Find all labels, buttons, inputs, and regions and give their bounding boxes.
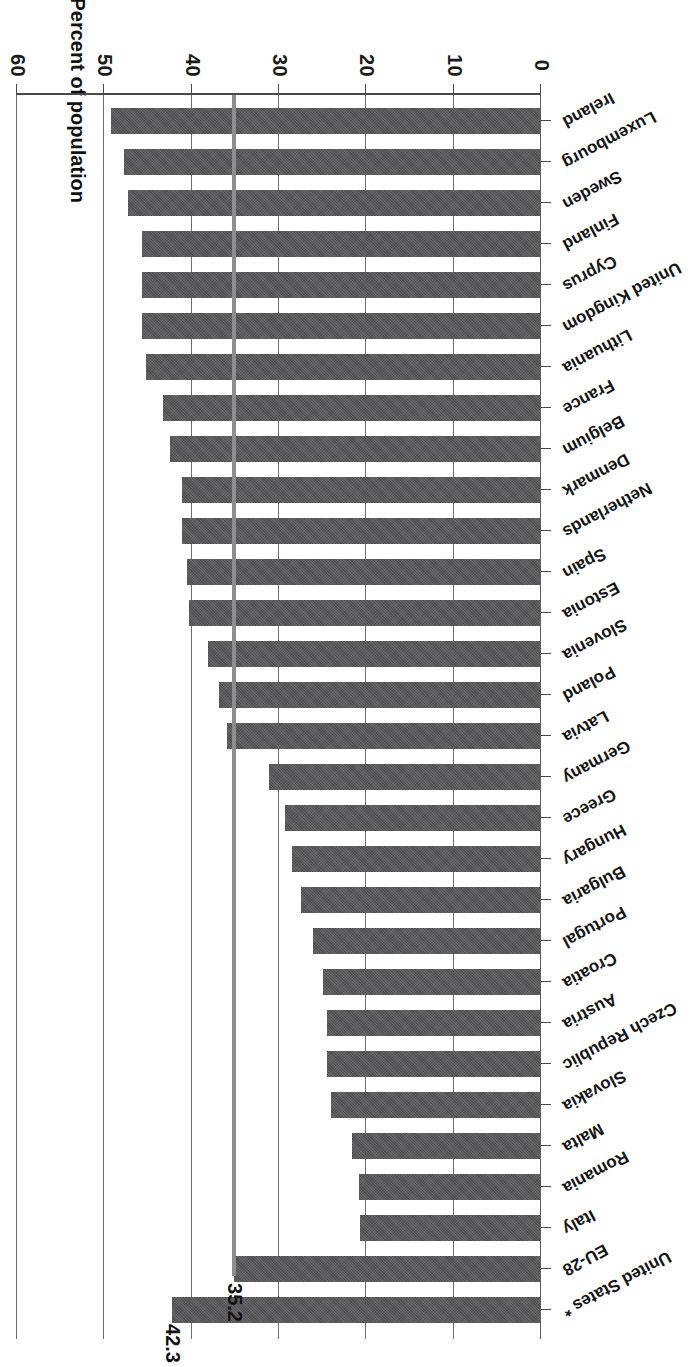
category-tick-bulgaria [541,900,551,901]
category-tick-luxembourg [541,162,551,163]
bar-denmark [182,478,541,504]
bar-spain [187,560,541,586]
category-label-latvia: Latvia [559,706,612,747]
bar-italy [360,1216,541,1242]
category-tick-lithuania [541,367,551,368]
category-label-malta: Malta [559,1119,607,1157]
category-tick-spain [541,572,551,573]
category-tick-poland [541,695,551,696]
category-label-italy: Italy [559,1206,598,1240]
category-label-greece: Greece [559,784,619,829]
bar-eu-28 [234,1257,541,1283]
category-tick-italy [541,1228,551,1229]
bar-belgium [170,437,541,463]
category-label-eu-28: EU-28 [559,1240,611,1280]
category-tick-cyprus [541,285,551,286]
bar-croatia [323,970,541,996]
category-tick-greece [541,818,551,819]
category-tick-slovenia [541,654,551,655]
bar-czech-republic [327,1052,541,1078]
category-label-finland: Finland [559,209,622,255]
bar-malta [352,1134,541,1160]
category-label-france: France [559,375,618,419]
category-tick-austria [541,1023,551,1024]
bar-bulgaria [301,888,541,914]
bar-sweden [128,191,541,217]
category-tick-portugal [541,941,551,942]
category-tick-denmark [541,490,551,491]
bar-netherlands [182,519,541,545]
bar-greece [285,806,541,832]
bar-romania [359,1175,541,1201]
bar-ireland [111,109,541,135]
category-tick-czech-republic [541,1064,551,1065]
category-tick-united-states- [541,1310,551,1311]
bar-finland [142,232,541,258]
category-tick-netherlands [541,531,551,532]
category-label-poland: Poland [559,662,618,706]
category-tick-ireland [541,121,551,122]
category-label-ireland: Ireland [559,88,618,132]
data-label-united-states: 42.3 [160,1319,183,1367]
category-tick-eu-28 [541,1269,551,1270]
category-tick-united-kingdom [541,326,551,327]
bar-slovenia [208,642,541,668]
data-label-eu-28: 35.2 [222,1278,245,1328]
category-label-croatia: Croatia [559,948,620,993]
bar-united-kingdom [142,314,541,340]
category-tick-slovakia [541,1105,551,1106]
category-tick-croatia [541,982,551,983]
bar-poland [219,683,541,709]
category-tick-malta [541,1146,551,1147]
category-tick-belgium [541,449,551,450]
bar-france [163,396,541,422]
bar-luxembourg [124,150,541,176]
category-tick-finland [541,244,551,245]
category-label-sweden: Sweden [559,166,625,214]
category-tick-hungary [541,859,551,860]
category-label-spain: Spain [559,544,609,583]
bar-austria [327,1011,541,1037]
category-tick-france [541,408,551,409]
category-tick-germany [541,777,551,778]
category-label-cyprus: Cyprus [559,251,620,296]
bar-portugal [313,929,541,955]
bar-slovakia [331,1093,541,1119]
category-tick-romania [541,1187,551,1188]
category-label-austria: Austria [559,989,620,1034]
reference-line-eu28 [232,95,236,1276]
bar-latvia [227,724,541,750]
bar-germany [270,765,542,791]
category-tick-latvia [541,736,551,737]
bar-lithuania [146,355,541,381]
bar-estonia [189,601,541,627]
bar-cyprus [142,273,541,299]
category-tick-sweden [541,203,551,204]
category-tick-estonia [541,613,551,614]
bar-hungary [292,847,541,873]
